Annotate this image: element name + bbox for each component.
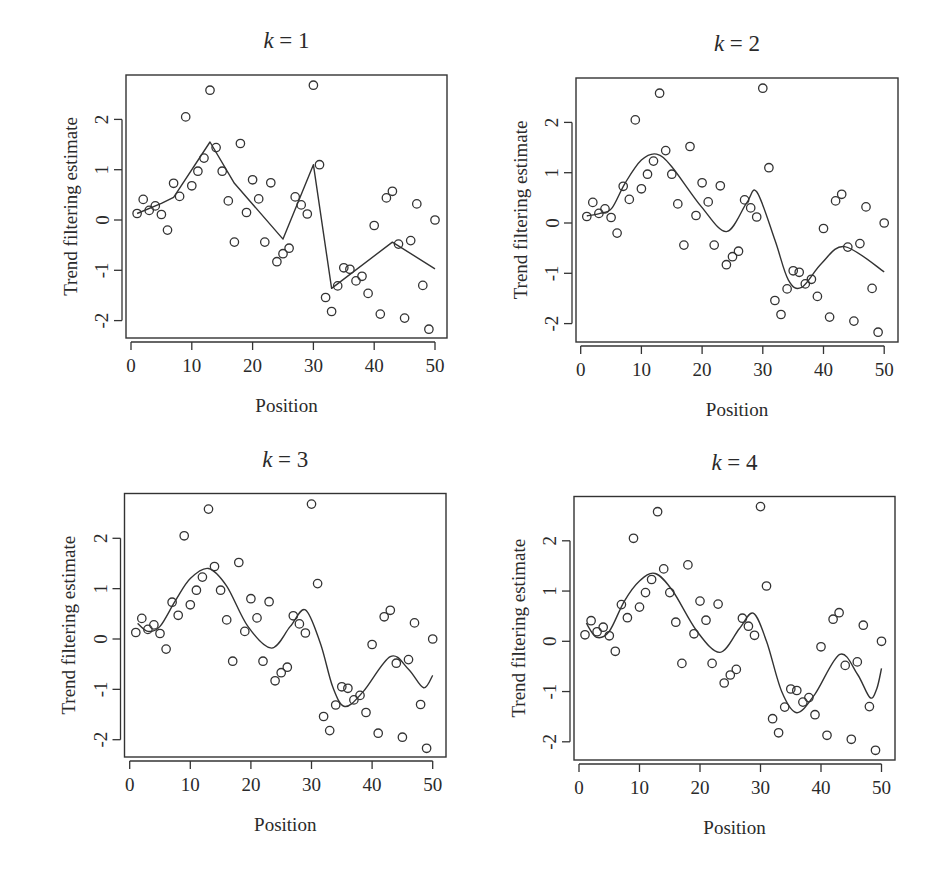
data-point [768, 715, 776, 723]
y-tick-label: 1 [92, 165, 113, 175]
data-point [410, 619, 418, 627]
data-point [301, 629, 309, 637]
y-tick-label: 1 [542, 168, 563, 178]
y-tick-label: 2 [542, 118, 563, 128]
y-tick-label: 1 [90, 584, 111, 594]
data-points [132, 500, 437, 753]
y-axis-label: Trend filtering estimate [60, 117, 81, 296]
data-point [265, 598, 273, 606]
data-point [309, 81, 317, 89]
data-point [684, 561, 692, 569]
data-point [392, 659, 400, 667]
data-point [169, 179, 177, 187]
data-point [261, 238, 269, 246]
data-point [655, 89, 663, 97]
title-value: = 4 [722, 450, 758, 475]
data-point [224, 197, 232, 205]
data-point [235, 558, 243, 566]
data-point [783, 285, 791, 293]
data-point [825, 313, 833, 321]
y-tick-label: 2 [90, 534, 111, 544]
x-tick-label: 10 [630, 777, 649, 798]
plot-frame [125, 494, 447, 758]
data-point [374, 729, 382, 737]
data-point [583, 212, 591, 220]
panel-title: k = 2 [714, 31, 760, 56]
data-point [856, 239, 864, 247]
data-point [708, 659, 716, 667]
data-point [404, 655, 412, 663]
panel-k4: k = 401020304050Position-2-1012Trend fil… [508, 450, 896, 839]
x-tick-label: 50 [423, 774, 442, 795]
y-tick-label: 2 [540, 536, 561, 546]
y-tick-label: 1 [540, 586, 561, 596]
data-point [139, 195, 147, 203]
y-tick-label: 0 [540, 637, 561, 647]
data-point [672, 618, 680, 626]
data-point [720, 679, 728, 687]
data-point [198, 573, 206, 581]
data-point [871, 746, 879, 754]
data-point [862, 203, 870, 211]
data-point [216, 586, 224, 594]
plots-canvas: k = 101020304050Position-2-1012Trend fil… [0, 0, 930, 872]
data-point [295, 620, 303, 628]
panel-title: k = 1 [263, 28, 309, 53]
data-point [702, 616, 710, 624]
data-point [859, 621, 867, 629]
data-point [625, 195, 633, 203]
data-point [368, 640, 376, 648]
data-point [340, 264, 348, 272]
data-point [273, 258, 281, 266]
data-point [635, 603, 643, 611]
data-point [611, 647, 619, 655]
data-point [722, 261, 730, 269]
data-point [386, 606, 394, 614]
y-axis-label: Trend filtering estimate [510, 121, 531, 300]
x-tick-label: 10 [182, 355, 201, 376]
data-point [307, 500, 315, 508]
x-axis: 01020304050 [576, 346, 894, 380]
x-tick-label: 0 [126, 355, 136, 376]
data-point [163, 226, 171, 234]
plot-frame [574, 497, 895, 761]
x-axis-label: Position [703, 817, 766, 838]
data-point [756, 502, 764, 510]
data-point [370, 221, 378, 229]
data-point [660, 565, 668, 573]
panel-k3: k = 301020304050Position-2-1012Trend fil… [58, 447, 446, 836]
x-tick-label: 0 [576, 359, 586, 380]
data-point [180, 532, 188, 540]
data-point [174, 611, 182, 619]
x-tick-label: 50 [426, 355, 445, 376]
data-point [874, 328, 882, 336]
data-point [419, 281, 427, 289]
data-point [841, 661, 849, 669]
data-point [431, 216, 439, 224]
plot-frame [126, 75, 447, 338]
data-point [285, 244, 293, 252]
data-point [714, 600, 722, 608]
data-point [631, 116, 639, 124]
y-tick-label: 0 [90, 634, 111, 644]
data-point [186, 601, 194, 609]
trend-fit-line [587, 154, 884, 289]
data-point [817, 643, 825, 651]
data-point [880, 219, 888, 227]
y-axis: -2-1012 [90, 534, 121, 748]
data-point [271, 677, 279, 685]
x-axis: 01020304050 [126, 342, 444, 376]
panel-title: k = 3 [262, 447, 308, 472]
trend-fit-line [586, 573, 881, 713]
data-point [229, 657, 237, 665]
plot-frame [576, 78, 898, 342]
x-tick-label: 0 [125, 774, 135, 795]
data-point [853, 658, 861, 666]
data-point [313, 579, 321, 587]
data-point [698, 179, 706, 187]
panel-k1: k = 101020304050Position-2-1012Trend fil… [60, 28, 448, 416]
data-point [332, 701, 340, 709]
data-point [413, 200, 421, 208]
data-point [362, 708, 370, 716]
x-tick-label: 40 [365, 355, 384, 376]
